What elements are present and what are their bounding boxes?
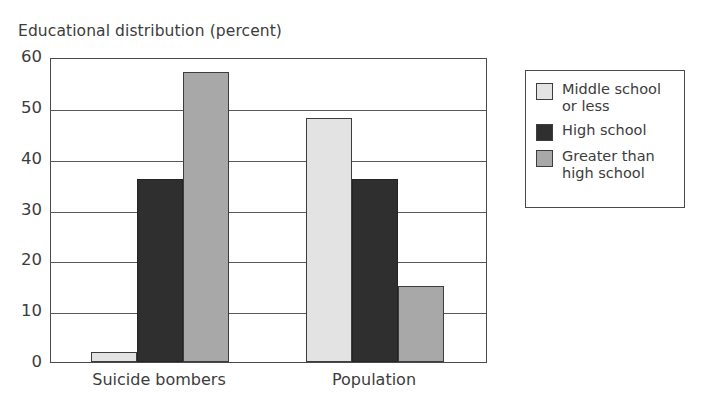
y-axis-tick-20: 20 [2,250,42,269]
gridline-20 [51,262,486,263]
bar-0-1 [137,179,183,362]
chart-title: Educational distribution (percent) [18,22,282,40]
bar-0-0 [91,352,137,362]
legend-swatch-icon-1 [536,124,553,141]
legend-label-0: Middle school or less [562,81,676,115]
y-axis: 0102030405060 [0,58,42,363]
gridline-50 [51,110,486,111]
legend-item-1[interactable]: High school [536,122,676,141]
y-axis-tick-40: 40 [2,149,42,168]
gridline-40 [51,161,486,162]
legend-swatch-icon-0 [536,83,553,100]
bar-0-2 [183,72,229,362]
x-axis-label-1: Population [275,370,473,389]
y-axis-tick-50: 50 [2,98,42,117]
legend-item-0[interactable]: Middle school or less [536,81,676,115]
bar-1-2 [398,286,444,362]
legend-label-2: Greater than high school [562,148,676,182]
bar-1-1 [352,179,398,362]
legend-swatch-icon-2 [536,150,553,167]
y-axis-tick-0: 0 [2,352,42,371]
gridline-30 [51,212,486,213]
y-axis-tick-10: 10 [2,301,42,320]
y-axis-tick-30: 30 [2,200,42,219]
y-axis-tick-60: 60 [2,47,42,66]
chart-legend: Middle school or lessHigh schoolGreater … [525,70,685,208]
legend-item-2[interactable]: Greater than high school [536,148,676,182]
x-axis-label-0: Suicide bombers [60,370,258,389]
plot-area [50,58,487,363]
bar-1-0 [306,118,352,362]
legend-label-1: High school [562,122,646,139]
